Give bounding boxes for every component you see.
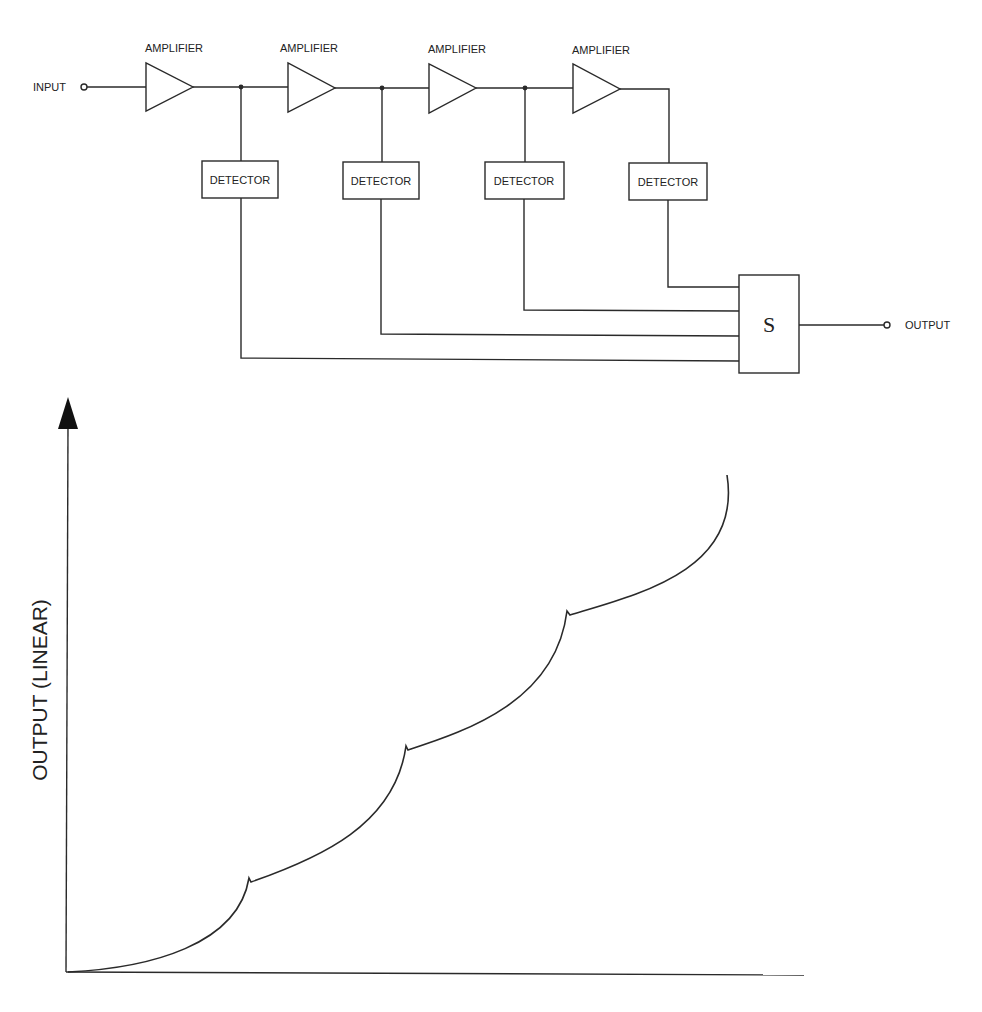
detector-4-label: DETECTOR	[638, 176, 698, 188]
block-diagram: INPUT AMPLIFIER AMPLIFIER AMPLIFIER AMPL…	[33, 42, 951, 373]
amplifier-3-label: AMPLIFIER	[428, 43, 486, 55]
x-axis-line	[66, 972, 804, 975]
amplifier-1-label: AMPLIFIER	[145, 42, 203, 54]
amp4-output-wire	[620, 89, 669, 163]
detector-2-label: DETECTOR	[351, 175, 411, 187]
response-curve	[68, 475, 728, 972]
amplifier-4-triangle-icon	[573, 64, 620, 113]
amplifier-4-label: AMPLIFIER	[572, 44, 630, 56]
detector-3-to-summer-wire	[524, 199, 739, 311]
detector-1-label: DETECTOR	[210, 174, 270, 186]
output-terminal-icon	[884, 322, 890, 328]
detector-3-label: DETECTOR	[494, 175, 554, 187]
input-terminal-icon	[81, 84, 87, 90]
amplifier-2-triangle-icon	[288, 63, 335, 112]
response-graph: OUTPUT (LINEAR)	[28, 397, 804, 975]
detector-1-to-summer-wire	[241, 198, 739, 361]
input-label: INPUT	[33, 81, 66, 93]
amplifier-1-triangle-icon	[146, 63, 193, 111]
detector-2-to-summer-wire	[381, 199, 739, 336]
output-label: OUTPUT	[905, 319, 951, 331]
y-axis-label: OUTPUT (LINEAR)	[28, 599, 51, 781]
diagram-canvas: INPUT AMPLIFIER AMPLIFIER AMPLIFIER AMPL…	[0, 0, 982, 1012]
detector-4-to-summer-wire	[668, 200, 739, 287]
y-axis-line	[66, 425, 68, 972]
amplifier-2-label: AMPLIFIER	[280, 42, 338, 54]
y-axis-arrow-icon	[58, 397, 78, 429]
amplifier-3-triangle-icon	[429, 64, 476, 113]
summer-label: S	[763, 312, 775, 337]
